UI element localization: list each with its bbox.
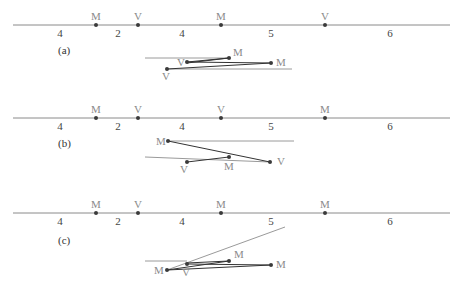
axis-point [94,23,98,27]
axis-point-label: M [91,103,101,115]
figure-point-label: V [177,56,185,68]
figure-point-label: M [276,258,286,270]
axis-point [94,116,98,120]
axis-point [136,116,140,120]
segment-number: 6 [387,120,393,132]
axis-point [94,211,98,215]
figure-point-label: V [180,163,188,175]
segment-number: 6 [387,27,393,39]
axis-point-label: M [216,198,226,210]
figure-point-label: M [234,248,244,260]
segment-number: 2 [115,215,121,227]
segment-number: 4 [179,215,185,227]
segment-number: 5 [268,27,274,39]
axis-point [323,23,327,27]
segment-number: 5 [268,120,274,132]
figure-point [166,139,170,143]
axis-point [323,116,327,120]
axis-point-label: V [134,103,142,115]
figure-point [185,60,189,64]
edge [187,62,271,63]
figure-point-label: V [277,155,285,167]
axis-point [136,23,140,27]
figure-point-label: M [154,264,164,276]
panel-label-b: (b) [58,137,71,150]
segment-number: 2 [115,120,121,132]
figure-point-label: V [162,70,170,82]
axis-point-label: M [91,10,101,22]
figure-point [269,61,273,65]
figure-point-label: M [276,56,286,68]
axis-point [219,211,223,215]
panel-label-c: (c) [58,234,71,247]
segment-number: 5 [268,215,274,227]
axis-point-label: V [134,10,142,22]
segment-number: 4 [179,120,185,132]
reference-line [167,227,285,270]
axis-point-label: M [320,103,330,115]
axis-point-label: V [134,198,142,210]
axis-point-label: M [91,198,101,210]
figure-point [269,263,273,267]
diagram-canvas: M V M V 4 2 4 5 6 (a) M V M V M V V M [0,0,462,288]
edge [187,157,229,162]
axis-point-label: V [217,103,225,115]
axis-point [219,116,223,120]
figure-point-label: M [156,135,166,147]
segment-number: 4 [57,215,63,227]
figure-point-label: V [182,266,190,278]
figure-point [227,155,231,159]
axis-point-label: M [216,10,226,22]
panel-a: M V M V 4 2 4 5 6 (a) M V M V [13,10,450,82]
axis-point-label: M [320,198,330,210]
segment-number: 6 [387,215,393,227]
axis-point [219,23,223,27]
axis-point-label: V [321,10,329,22]
panel-b: M V V M 4 2 4 5 6 (b) M V M V [13,103,450,175]
figure-point [165,268,169,272]
figure-point-label: M [233,46,243,58]
figure-point [268,160,272,164]
figure-point [227,56,231,60]
segment-number: 4 [57,27,63,39]
axis-point [323,211,327,215]
figure-point [227,259,231,263]
axis-point [136,211,140,215]
segment-number: 4 [179,27,185,39]
panel-c: M V M M 4 2 4 5 6 (c) M M V M [13,198,450,278]
segment-number: 4 [57,120,63,132]
segment-number: 2 [115,27,121,39]
panel-label-a: (a) [58,44,71,57]
figure-point-label: M [224,160,234,172]
